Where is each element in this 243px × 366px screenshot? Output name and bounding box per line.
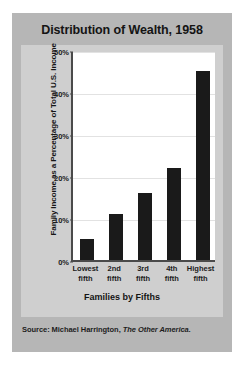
page-title: Distribution of Wealth, 1958: [12, 23, 232, 37]
x-axis-tick-labels: Lowestfifth2ndfifth3rdfifth4thfifthHighe…: [71, 264, 215, 288]
bar: [196, 71, 210, 260]
y-axis-title: Family Income as a Percentage of Total U…: [49, 56, 58, 236]
y-tick-mark: [70, 52, 73, 53]
gridline: [73, 136, 215, 137]
y-tick-mark: [70, 94, 73, 95]
chart-card: Distribution of Wealth, 1958 Family Inco…: [12, 13, 232, 352]
y-tick-label: 10%: [54, 216, 69, 225]
bar: [109, 214, 123, 260]
plot-area: 0%10%20%30%40%50%: [71, 52, 215, 262]
source-book-title: The Other America.: [123, 325, 191, 334]
bar: [167, 168, 181, 260]
gridline: [73, 52, 215, 53]
y-tick-mark: [70, 178, 73, 179]
y-tick-label: 20%: [54, 174, 69, 183]
plot-panel: Family Income as a Percentage of Total U…: [21, 45, 223, 317]
gridline: [73, 178, 215, 179]
x-tick-label: Highestfifth: [178, 264, 224, 283]
source-prefix: Source: Michael Harrington,: [22, 325, 121, 334]
source-note: Source: Michael Harrington, The Other Am…: [22, 325, 227, 334]
y-tick-label: 30%: [54, 132, 69, 141]
bar: [138, 193, 152, 260]
y-tick-label: 50%: [54, 48, 69, 57]
y-tick-mark: [70, 136, 73, 137]
x-axis-title: Families by Fifths: [21, 292, 223, 302]
gridline: [73, 94, 215, 95]
y-tick-mark: [70, 262, 73, 263]
y-tick-mark: [70, 220, 73, 221]
bar: [80, 239, 94, 260]
y-tick-label: 40%: [54, 90, 69, 99]
